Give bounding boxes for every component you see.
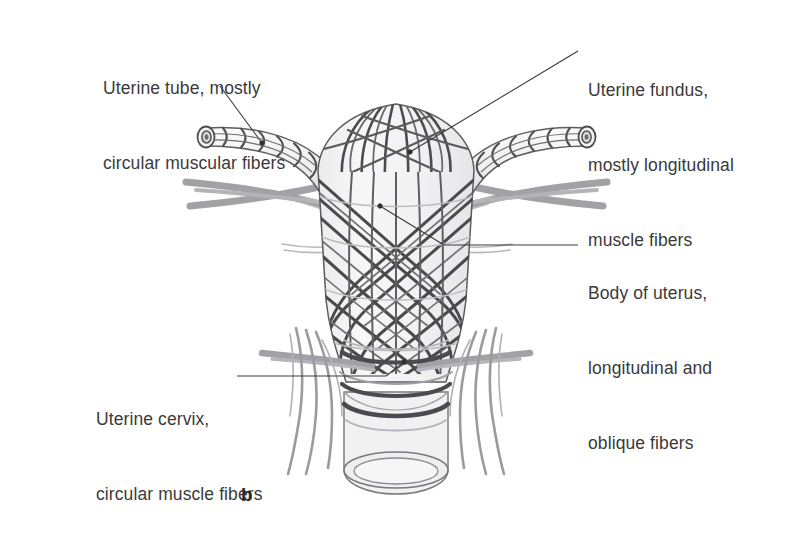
label-uterine-tube-line-2: circular muscular fibers [103,151,285,176]
panel-letter: b [241,484,253,506]
label-uterine-cervix-line-1: Uterine cervix, [96,407,263,432]
label-body-of-uterus-line-2: longitudinal and [588,356,712,381]
figure-panel: Uterine tube, mostly circular muscular f… [0,0,793,539]
label-uterine-fundus-line-2: mostly longitudinal [588,153,734,178]
label-uterine-cervix-line-2: circular muscle fibers [96,482,263,507]
label-body-of-uterus-line-3: oblique fibers [588,431,712,456]
label-uterine-tube: Uterine tube, mostly circular muscular f… [103,26,285,226]
label-body-of-uterus-line-1: Body of uterus, [588,281,712,306]
label-uterine-fundus-line-1: Uterine fundus, [588,78,734,103]
label-body-of-uterus: Body of uterus, longitudinal and oblique… [588,231,712,506]
label-uterine-cervix: Uterine cervix, circular muscle fibers [96,357,263,539]
vaginal-cuff [344,392,448,494]
label-uterine-tube-line-1: Uterine tube, mostly [103,76,285,101]
